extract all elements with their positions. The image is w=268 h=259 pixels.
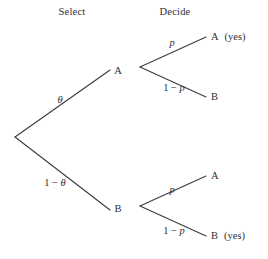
- prob-one-minus-p-upper-symbol: p: [179, 82, 184, 93]
- terminal-b-yes-note: (yes): [224, 230, 245, 241]
- prob-one-minus-p-lower: 1−p: [163, 226, 184, 237]
- prob-one-minus-theta-prefix: 1: [44, 177, 49, 188]
- terminal-a-yes-letter: A: [211, 31, 219, 42]
- prob-p-lower-symbol: p: [169, 184, 174, 195]
- terminal-b-yes: B(yes): [211, 231, 245, 242]
- column-header-select: Select: [59, 7, 86, 18]
- terminal-a-yes-note: (yes): [225, 31, 246, 42]
- prob-p-upper-symbol: p: [169, 37, 174, 48]
- column-header-decide: Decide: [160, 7, 191, 18]
- terminal-b-a-letter: A: [211, 170, 219, 181]
- edge-root-b: [15, 137, 110, 210]
- node-stage1-b: B: [114, 204, 121, 215]
- prob-theta: θ: [57, 95, 62, 106]
- prob-one-minus-p-lower-prefix: 1: [163, 225, 168, 236]
- prob-one-minus-p-upper: 1−p: [163, 83, 184, 94]
- prob-one-minus-theta-operator: −: [52, 177, 58, 188]
- terminal-a-b-letter: B: [211, 91, 218, 102]
- prob-one-minus-theta: 1−θ: [44, 178, 65, 189]
- prob-p-upper: p: [169, 38, 174, 49]
- terminal-b-yes-letter: B: [211, 230, 218, 241]
- prob-one-minus-theta-symbol: θ: [61, 177, 66, 188]
- prob-one-minus-p-upper-operator: −: [171, 82, 177, 93]
- prob-one-minus-p-lower-operator: −: [171, 225, 177, 236]
- decision-tree-diagram: SelectDecide AB A(yes)BAB(yes) θ1−θp1−pp…: [0, 0, 268, 259]
- prob-one-minus-p-lower-symbol: p: [179, 225, 184, 236]
- prob-theta-symbol: θ: [57, 94, 62, 105]
- terminal-a-yes: A(yes): [211, 32, 246, 43]
- terminal-a-b: B: [211, 92, 218, 103]
- prob-p-lower: p: [169, 185, 174, 196]
- prob-one-minus-p-upper-prefix: 1: [163, 82, 168, 93]
- terminal-b-a: A: [211, 171, 219, 182]
- node-stage1-a: A: [114, 66, 122, 77]
